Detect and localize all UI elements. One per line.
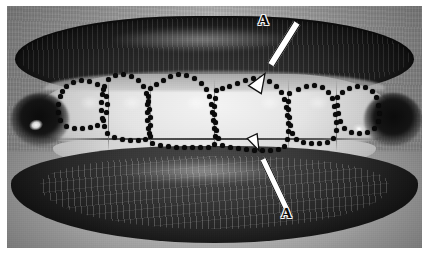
annotation-overlay: A A (0, 0, 429, 260)
arrow-lower-shaft (260, 158, 289, 209)
leader-arrow-lower (0, 0, 429, 260)
label-a-lower: A (281, 206, 292, 221)
clinical-photograph-figure: A A (0, 0, 429, 260)
arrow-lower-head (243, 129, 266, 153)
